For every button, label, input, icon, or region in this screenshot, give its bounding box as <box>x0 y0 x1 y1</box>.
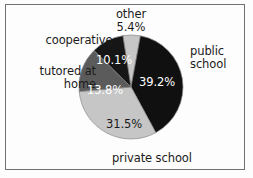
slice-value-tutored-at-home: 13.8% <box>81 84 129 96</box>
slice-label-other: other 5.4% <box>103 8 159 34</box>
slice-value-cooperative: 10.1% <box>90 54 138 66</box>
slice-label-public-school: public school <box>190 45 248 71</box>
slice-value-private-school: 31.5% <box>100 118 148 130</box>
slice-label-cooperative: cooperative <box>31 34 127 47</box>
pie-chart-figure: other 5.4% cooperative tutored at home p… <box>0 0 253 178</box>
slice-label-private-school: private school <box>92 152 212 165</box>
slice-value-public-school: 39.2% <box>133 76 181 88</box>
